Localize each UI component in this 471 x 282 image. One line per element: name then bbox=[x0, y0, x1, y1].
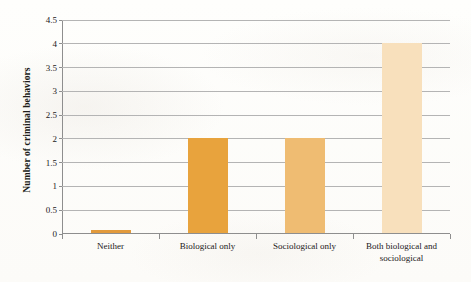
y-axis-tick-label: 3.5 bbox=[46, 63, 57, 73]
y-axis-tick-label: 2.5 bbox=[46, 110, 57, 120]
x-axis-category-tick bbox=[159, 234, 160, 239]
bar bbox=[188, 138, 228, 233]
x-axis-category-tick bbox=[62, 234, 63, 239]
y-axis-tick-label: 0.5 bbox=[46, 205, 57, 215]
y-axis-tick-label: 4 bbox=[53, 39, 58, 49]
y-axis-tick-mark bbox=[59, 210, 62, 211]
x-axis-label: Both biological and sociological bbox=[353, 241, 450, 264]
y-axis-tick-mark bbox=[59, 20, 62, 21]
bar bbox=[285, 138, 325, 233]
x-axis-label: Neither bbox=[62, 241, 159, 253]
x-axis-labels: NeitherBiological onlySociological onlyB… bbox=[62, 241, 450, 279]
y-axis-title: Number of criminal behaviors bbox=[20, 40, 34, 220]
y-axis-tick-mark bbox=[59, 186, 62, 187]
y-axis-tick-mark bbox=[59, 162, 62, 163]
y-axis-tick-mark bbox=[59, 67, 62, 68]
x-axis-category-tick bbox=[256, 234, 257, 239]
y-axis-tick-mark bbox=[59, 138, 62, 139]
bar bbox=[91, 230, 131, 233]
y-axis-tick-label: 4.5 bbox=[46, 15, 57, 25]
y-axis-tick-mark bbox=[59, 43, 62, 44]
y-axis-tick-label: 2 bbox=[53, 134, 58, 144]
y-axis-tick-label: 0 bbox=[53, 229, 58, 239]
bar-chart: Number of criminal behaviors 00.511.522.… bbox=[0, 0, 471, 282]
y-axis-tick-label: 1 bbox=[53, 181, 58, 191]
x-axis-label: Sociological only bbox=[256, 241, 353, 253]
y-axis-tick-label: 3 bbox=[53, 86, 58, 96]
x-axis-label: Biological only bbox=[159, 241, 256, 253]
y-axis-tick-mark bbox=[59, 115, 62, 116]
y-axis-tick-mark bbox=[59, 91, 62, 92]
y-axis-title-label: Number of criminal behaviors bbox=[22, 67, 32, 192]
x-axis-category-tick bbox=[353, 234, 354, 239]
y-axis-tick-label: 1.5 bbox=[46, 158, 57, 168]
plot-area: 00.511.522.533.544.5 bbox=[62, 20, 450, 234]
bar bbox=[382, 43, 422, 233]
x-axis-category-tick bbox=[450, 234, 451, 239]
gridline bbox=[62, 20, 450, 21]
y-axis-line bbox=[62, 20, 63, 234]
